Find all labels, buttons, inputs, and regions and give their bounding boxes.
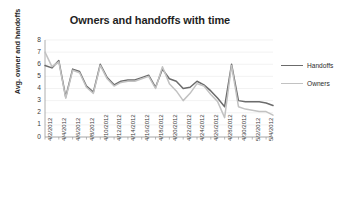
plot-area (0, 0, 349, 215)
legend-label: Handoffs (307, 62, 333, 69)
x-tick-label: 4/8/2012 (89, 118, 95, 141)
y-tick-label: 0 (27, 134, 41, 141)
x-tick-label: 4/18/2012 (158, 114, 164, 141)
x-tick-label: 5/4/2012 (268, 118, 274, 141)
x-tick-label: 4/14/2012 (130, 114, 136, 141)
series-line-owners (45, 52, 273, 117)
series-line-handoffs (45, 61, 273, 107)
y-tick-label: 6 (27, 61, 41, 68)
legend-label: Owners (307, 80, 330, 87)
x-tick-label: 4/28/2012 (227, 114, 233, 141)
legend-swatch-icon (281, 65, 303, 66)
y-tick-label: 4 (27, 85, 41, 92)
x-tick-label: 4/30/2012 (241, 114, 247, 141)
chart-legend: HandoffsOwners (281, 59, 333, 95)
x-tick-label: 4/6/2012 (75, 118, 81, 141)
y-tick-label: 3 (27, 97, 41, 104)
y-tick-label: 5 (27, 73, 41, 80)
x-tick-label: 4/2/2012 (47, 118, 53, 141)
y-tick-label: 2 (27, 109, 41, 116)
x-tick-label: 4/16/2012 (144, 114, 150, 141)
x-tick-label: 4/12/2012 (116, 114, 122, 141)
legend-item-handoffs[interactable]: Handoffs (281, 59, 333, 72)
chart-container: Owners and handoffs with time Avg. owner… (0, 0, 349, 215)
x-tick-label: 4/22/2012 (186, 114, 192, 141)
y-tick-label: 1 (27, 121, 41, 128)
x-tick-label: 4/26/2012 (213, 114, 219, 141)
legend-swatch-icon (281, 83, 303, 84)
y-tick-label: 8 (27, 37, 41, 44)
x-tick-label: 4/4/2012 (61, 118, 67, 141)
data-series-group (45, 52, 273, 117)
x-tick-label: 4/20/2012 (172, 114, 178, 141)
x-tick-label: 4/24/2012 (199, 114, 205, 141)
y-tick-label: 7 (27, 49, 41, 56)
legend-item-owners[interactable]: Owners (281, 77, 333, 90)
x-tick-label: 4/10/2012 (103, 114, 109, 141)
x-tick-label: 5/2/2012 (255, 118, 261, 141)
